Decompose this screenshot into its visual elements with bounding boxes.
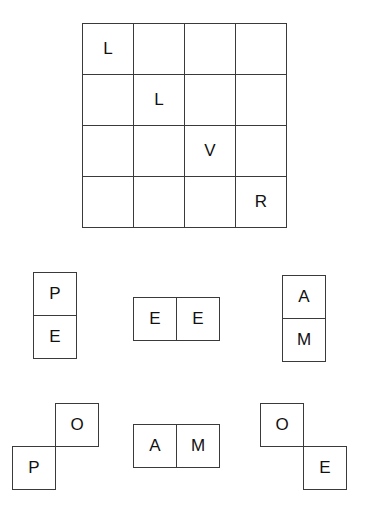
piece-tile: E	[176, 297, 220, 341]
piece-am-vertical[interactable]: A M	[282, 275, 326, 363]
grid-cell-r2c4[interactable]	[236, 75, 287, 126]
piece-pe-vertical[interactable]: P E	[33, 272, 77, 360]
grid-cell-r4c1[interactable]	[83, 177, 134, 228]
grid-cell-r1c3[interactable]	[185, 24, 236, 75]
grid-cell-r2c2[interactable]: L	[134, 75, 185, 126]
grid-cell-r4c2[interactable]	[134, 177, 185, 228]
grid-cell-r2c3[interactable]	[185, 75, 236, 126]
grid-cell-r3c2[interactable]	[134, 126, 185, 177]
grid-cell-r2c1[interactable]	[83, 75, 134, 126]
piece-tile: O	[55, 403, 99, 447]
piece-tile: O	[260, 403, 304, 447]
piece-tile: A	[282, 275, 326, 319]
piece-tile: M	[282, 318, 326, 362]
piece-tile: P	[33, 272, 77, 316]
piece-tile: E	[33, 315, 77, 359]
grid-cell-r1c4[interactable]	[236, 24, 287, 75]
piece-am-horizontal[interactable]: A M	[133, 424, 221, 468]
piece-tile: P	[12, 446, 56, 490]
piece-tile: E	[303, 446, 347, 490]
puzzle-grid: L L V R	[82, 23, 287, 228]
grid-cell-r3c1[interactable]	[83, 126, 134, 177]
grid-cell-r4c3[interactable]	[185, 177, 236, 228]
grid-cell-r1c2[interactable]	[134, 24, 185, 75]
piece-oe-diagonal[interactable]: O E	[260, 403, 348, 491]
piece-tile: A	[133, 424, 177, 468]
piece-op-diagonal[interactable]: O P	[12, 403, 100, 491]
piece-tile: M	[176, 424, 220, 468]
grid-cell-r1c1[interactable]: L	[83, 24, 134, 75]
grid-cell-r3c3[interactable]: V	[185, 126, 236, 177]
grid-cell-r3c4[interactable]	[236, 126, 287, 177]
piece-ee-horizontal[interactable]: E E	[133, 297, 221, 341]
grid-cell-r4c4[interactable]: R	[236, 177, 287, 228]
piece-tile: E	[133, 297, 177, 341]
